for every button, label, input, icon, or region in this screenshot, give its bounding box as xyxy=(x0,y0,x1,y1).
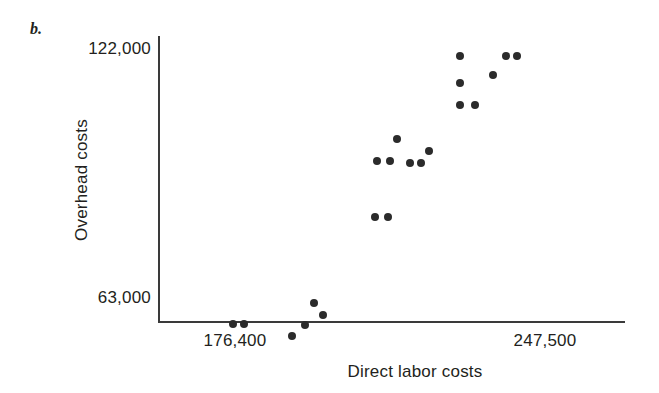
data-point xyxy=(425,147,433,155)
data-point xyxy=(417,159,425,167)
data-point xyxy=(456,79,464,87)
data-point xyxy=(471,101,479,109)
data-point xyxy=(288,332,296,340)
x-axis-tick-label-max: 247,500 xyxy=(514,331,577,351)
data-point xyxy=(319,311,327,319)
data-point xyxy=(310,299,318,307)
data-point xyxy=(386,157,394,165)
y-axis-title: Overhead costs xyxy=(72,50,92,310)
data-point xyxy=(373,157,381,165)
x-axis-line xyxy=(158,321,625,323)
data-point xyxy=(406,159,414,167)
y-axis-tick-label-min: 63,000 xyxy=(98,288,151,308)
x-axis-tick-label-min: 176,400 xyxy=(204,331,267,351)
data-point xyxy=(456,101,464,109)
data-point xyxy=(502,52,510,60)
panel-letter: b. xyxy=(30,20,42,38)
y-axis-line xyxy=(158,36,160,323)
scatter-plot-figure: b. 122,000 63,000 176,400 247,500 Overhe… xyxy=(0,0,659,393)
data-point xyxy=(384,213,392,221)
data-point xyxy=(371,213,379,221)
y-axis-tick-label-max: 122,000 xyxy=(88,39,151,59)
data-point xyxy=(393,135,401,143)
data-point xyxy=(489,71,497,79)
data-point xyxy=(456,52,464,60)
data-point xyxy=(513,52,521,60)
x-axis-title: Direct labor costs xyxy=(348,362,483,382)
